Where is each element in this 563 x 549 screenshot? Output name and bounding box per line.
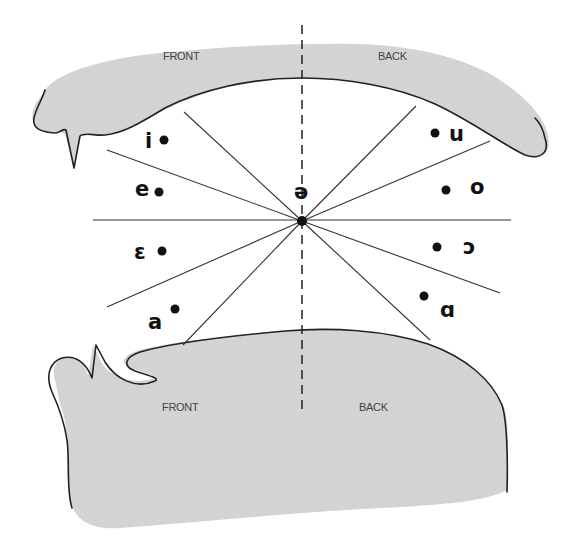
vowel-dot-open-e [158,247,167,256]
tongue-shape [49,329,508,528]
vowel-dot-open-o [433,243,442,252]
vowel-script-a: ɑ [440,298,455,322]
ray-line [302,221,430,340]
lower-front-label: FRONT [162,401,199,413]
vowel-u: u [449,122,464,146]
lower-back-label: BACK [359,401,389,413]
front-vowels: i e ɛ a [134,129,180,334]
vowel-dot-a [171,305,180,314]
back-vowels: u o ɔ ɑ [420,122,485,322]
vowel-diagram: ə FRONT BACK FRONT BACK i e ɛ a u o ɔ ɑ [0,0,563,549]
vowel-e: e [135,177,149,201]
vowel-dot-i [160,136,169,145]
ray-line [302,141,490,221]
center-point [297,216,307,226]
vowel-o: o [470,175,484,199]
vowel-open-e: ɛ [134,240,146,264]
ray-line [184,112,302,221]
ray-line [183,221,302,345]
vowel-open-o: ɔ [463,235,475,259]
vowel-dot-o [442,186,451,195]
vowel-dot-u [431,129,440,138]
vowel-i: i [145,129,152,153]
vowel-a: a [148,310,162,334]
vowel-dot-script-a [420,292,429,301]
upper-back-label: BACK [378,50,408,62]
ray-line [302,106,416,221]
vowel-schwa: ə [294,180,308,204]
ray-line [107,221,302,307]
vowel-dot-e [155,188,164,197]
upper-front-label: FRONT [163,50,200,62]
